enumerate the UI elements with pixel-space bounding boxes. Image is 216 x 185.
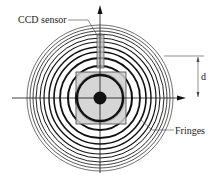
center-dot [94,92,107,105]
distance-label: d [201,72,206,82]
ccd-sensor [97,35,104,68]
vertical-axis-arrowhead-icon [98,5,103,14]
ccd-leader-bend [88,20,97,35]
fringe-diagram [0,0,216,185]
d-arrow-bottom-icon [197,92,200,97]
fringes-label: Fringes [175,126,205,136]
ccd-sensor-label: CCD sensor [18,15,67,25]
horizontal-axis-arrowhead-icon [177,96,186,101]
d-arrow-top-icon [197,57,200,62]
